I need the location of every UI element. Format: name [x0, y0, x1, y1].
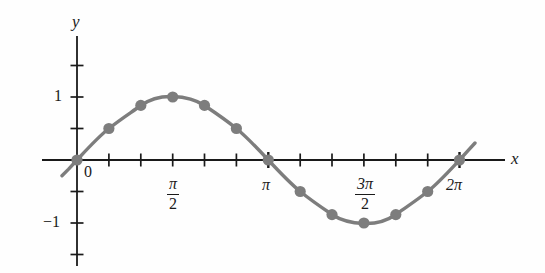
- sine-curve-figure: y x 0 1 −1 π 2 π 3π 2 2π: [0, 0, 545, 273]
- two-pi-text: 2π: [446, 176, 462, 193]
- y-tick-label-negative-one: −1: [43, 213, 60, 231]
- y-tick-label-one: 1: [54, 87, 62, 105]
- data-point: [326, 209, 337, 220]
- x-tick-label-pi: π: [262, 176, 270, 194]
- pi-over-two-denominator: 2: [167, 195, 179, 213]
- three-pi-over-two-denominator: 2: [355, 195, 375, 213]
- x-tick-label-two-pi: 2π: [446, 176, 462, 194]
- data-point: [135, 100, 146, 111]
- data-point: [71, 154, 82, 165]
- pi-over-two-numerator: π: [167, 176, 179, 195]
- x-axis-label: x: [511, 149, 519, 169]
- data-point: [103, 123, 114, 134]
- origin-tick-label: 0: [84, 163, 92, 181]
- data-point: [295, 186, 306, 197]
- data-point: [231, 123, 242, 134]
- plot-canvas: [0, 0, 545, 273]
- data-point: [199, 100, 210, 111]
- three-pi-over-two-numerator: 3π: [355, 176, 375, 195]
- x-tick-label-pi-over-two: π 2: [157, 176, 189, 213]
- x-tick-label-three-pi-over-two: 3π 2: [347, 176, 383, 213]
- data-point: [390, 209, 401, 220]
- data-point: [422, 186, 433, 197]
- data-point: [167, 91, 178, 102]
- data-point: [263, 154, 274, 165]
- data-point: [454, 154, 465, 165]
- y-axis-label: y: [72, 12, 80, 32]
- data-point: [358, 217, 369, 228]
